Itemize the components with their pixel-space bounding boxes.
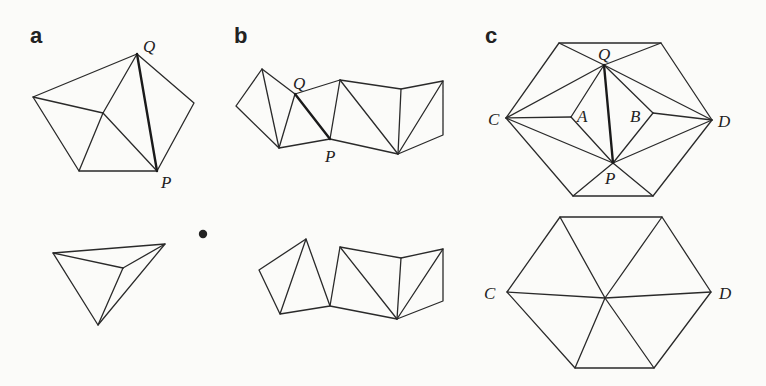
edge	[506, 117, 571, 118]
vertex-label-q: Q	[598, 45, 610, 64]
bold-edge-qp	[604, 65, 613, 163]
edge	[605, 292, 711, 298]
edge	[103, 54, 137, 113]
vertex-label-p: P	[160, 173, 171, 192]
edge	[560, 217, 605, 298]
edge	[397, 258, 401, 319]
edge	[605, 298, 654, 368]
edge	[613, 120, 712, 163]
edge	[653, 113, 712, 120]
edge	[613, 163, 653, 196]
pentagon-outline	[33, 54, 194, 171]
vertex-label-d: D	[718, 284, 732, 303]
strip-piece-right	[330, 247, 443, 319]
panel-b-top-strip: Q P	[236, 69, 443, 166]
edge	[98, 268, 123, 325]
panel-c-bottom-hexagon: C D	[484, 217, 732, 368]
panel-label-c: c	[485, 23, 497, 48]
panel-b: b Q P	[234, 23, 443, 319]
vertex-label-c: C	[488, 110, 500, 129]
vertex-label-a: A	[576, 107, 588, 126]
strip-piece-left	[259, 239, 330, 314]
vertex-label-q: Q	[293, 74, 305, 93]
bold-edge-qp	[295, 94, 330, 139]
edge	[340, 247, 397, 319]
figure-canvas: a Q P b	[0, 0, 766, 386]
panel-c-top-hexagon: Q P A B C D	[488, 43, 731, 196]
edge	[79, 113, 103, 171]
edge	[571, 65, 604, 117]
vertex-label-p: P	[324, 147, 335, 166]
edge	[33, 97, 103, 113]
panel-a: a Q P	[30, 23, 207, 325]
vertex-label-p: P	[604, 169, 615, 188]
vertex-label-q: Q	[143, 37, 155, 56]
edge	[604, 65, 712, 120]
edge	[604, 65, 653, 113]
edge	[279, 94, 295, 148]
panel-c: c Q P A B C D	[484, 23, 732, 368]
edge	[330, 80, 340, 139]
edge	[506, 65, 604, 118]
vertex-label-c: C	[484, 284, 496, 303]
edge	[123, 244, 165, 268]
edge	[506, 118, 613, 163]
edge	[605, 217, 662, 298]
vertex-label-d: D	[717, 112, 731, 131]
separator-dot	[199, 230, 207, 238]
edge	[397, 249, 443, 319]
edge	[53, 253, 123, 268]
edge	[280, 239, 306, 314]
panel-a-top-pentagon: Q P	[33, 37, 194, 192]
edge	[604, 43, 661, 65]
panel-a-bottom-shape	[53, 244, 165, 325]
vertex-label-b: B	[630, 107, 641, 126]
panel-label-a: a	[30, 23, 43, 48]
edge	[507, 292, 605, 298]
edge	[398, 89, 401, 154]
panel-label-b: b	[234, 23, 247, 48]
panel-b-bottom-strip	[259, 239, 443, 319]
edge	[262, 69, 279, 148]
edge	[575, 298, 605, 368]
edge	[398, 81, 443, 154]
